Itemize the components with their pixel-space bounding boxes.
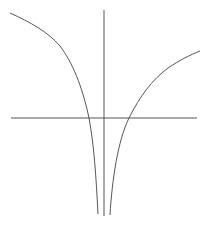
curve-left-branch	[10, 13, 98, 214]
graph-canvas	[0, 0, 205, 225]
curve-right-branch	[110, 51, 200, 215]
